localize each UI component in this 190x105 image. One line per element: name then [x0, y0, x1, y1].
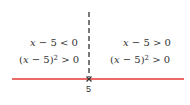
right-square-inequality: (x − 5)2 > 0 [110, 54, 170, 66]
left-square-inequality: (x − 5)2 > 0 [19, 54, 79, 66]
number-line-graphic [0, 0, 190, 105]
left-factor-inequality: x − 5 < 0 [30, 37, 78, 49]
critical-point-label: 5 [86, 84, 91, 94]
sign-chart-diagram: x − 5 < 0 (x − 5)2 > 0 x − 5 > 0 (x − 5)… [0, 0, 190, 105]
right-factor-inequality: x − 5 > 0 [123, 37, 171, 49]
